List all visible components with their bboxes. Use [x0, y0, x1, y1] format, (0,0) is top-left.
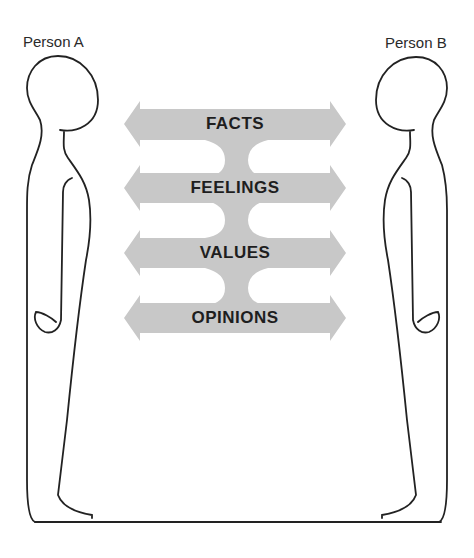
- person-a-label: Person A: [23, 33, 84, 50]
- person-b-arm: [402, 178, 439, 333]
- person-b-figure: [376, 57, 447, 522]
- channel-label-values: VALUES: [115, 243, 355, 263]
- connector-2-3: [205, 200, 268, 238]
- channel-label-opinions: OPINIONS: [115, 308, 355, 328]
- channel-label-feelings: FEELINGS: [115, 178, 355, 198]
- channel-label-facts: FACTS: [115, 114, 355, 134]
- connector-1-2: [205, 140, 268, 178]
- person-b-label: Person B: [385, 34, 447, 51]
- connector-3-4: [205, 268, 268, 306]
- person-a-arm: [35, 178, 72, 333]
- arrows-group: [124, 101, 346, 341]
- communication-diagram: [0, 0, 474, 558]
